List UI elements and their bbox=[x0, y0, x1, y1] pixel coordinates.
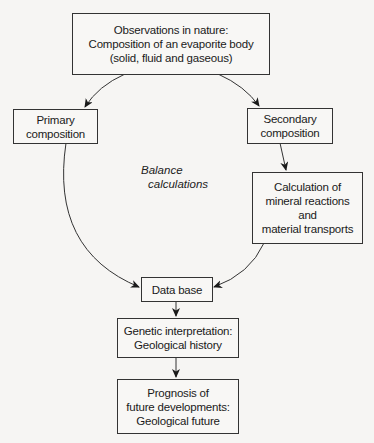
node-calculation-line-1: Calculation of bbox=[274, 180, 341, 194]
node-calculation-line-4: material transports bbox=[262, 222, 353, 236]
node-calculation: Calculation of mineral reactions and mat… bbox=[252, 172, 363, 244]
edge-label-calculations: calculations bbox=[148, 177, 208, 191]
node-primary-composition: Primary composition bbox=[13, 109, 98, 144]
node-secondary-line-1: Secondary bbox=[263, 112, 316, 126]
edge-label-balance: Balance bbox=[141, 163, 183, 177]
node-prognosis: Prognosis of future developments: Geolog… bbox=[117, 379, 239, 434]
node-genetic-line-2: Geological history bbox=[134, 338, 222, 352]
arrow-primary-to-database bbox=[64, 143, 139, 287]
node-observations-line-3: (solid, fluid and gaseous) bbox=[110, 51, 233, 65]
node-secondary-composition: Secondary composition bbox=[247, 108, 333, 144]
node-genetic-line-1: Genetic interpretation: bbox=[124, 324, 233, 338]
node-database-line-1: Data base bbox=[152, 283, 203, 297]
node-genetic-interpretation: Genetic interpretation: Geological histo… bbox=[117, 318, 239, 358]
arrow-observations-to-secondary bbox=[218, 74, 259, 106]
node-prognosis-line-1: Prognosis of bbox=[147, 386, 209, 400]
node-calculation-line-3: and bbox=[298, 208, 317, 222]
node-observations-line-2: Composition of an evaporite body bbox=[89, 37, 254, 51]
node-prognosis-line-2: future developments: bbox=[126, 400, 229, 414]
node-primary-line-2: composition bbox=[26, 127, 85, 141]
node-primary-line-1: Primary bbox=[36, 113, 74, 127]
node-observations-line-1: Observations in nature: bbox=[114, 23, 228, 37]
arrow-observations-to-primary bbox=[85, 74, 125, 107]
node-secondary-line-2: composition bbox=[260, 126, 319, 140]
edge-label-line-1: Balance bbox=[141, 164, 183, 176]
node-database: Data base bbox=[141, 277, 213, 302]
node-prognosis-line-3: Geological future bbox=[136, 414, 220, 428]
node-observations: Observations in nature: Composition of a… bbox=[72, 13, 270, 75]
arrow-secondary-to-calculation bbox=[280, 143, 286, 170]
edge-label-line-2: calculations bbox=[148, 178, 208, 190]
arrow-calculation-to-database bbox=[214, 243, 264, 287]
node-calculation-line-2: mineral reactions bbox=[265, 194, 349, 208]
